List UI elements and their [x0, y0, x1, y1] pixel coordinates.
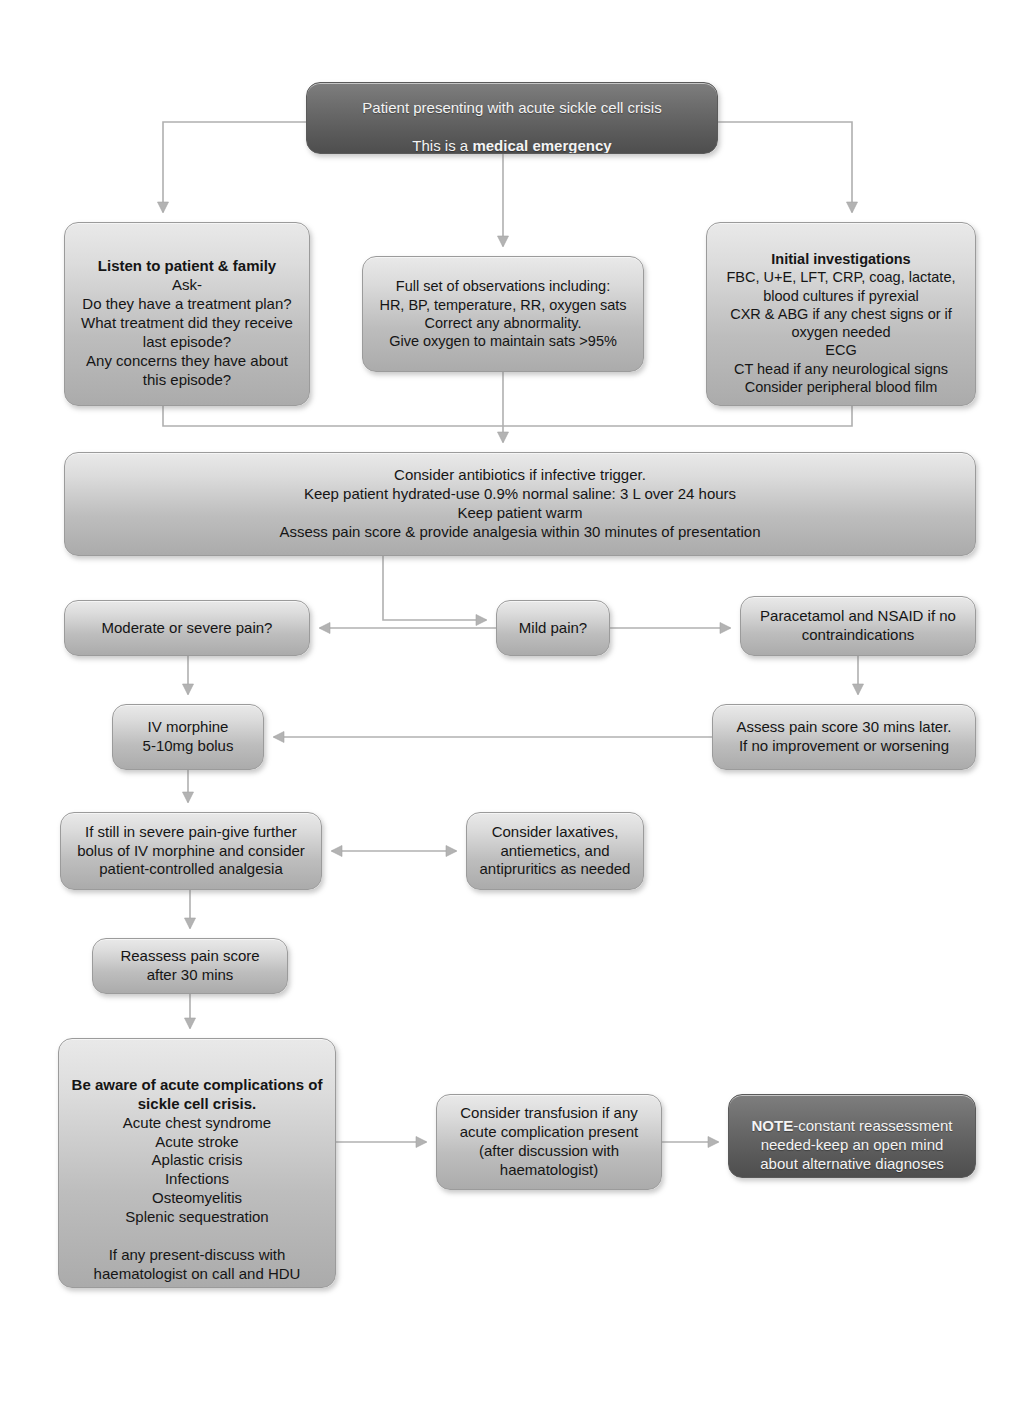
- mild-pain-body: Mild pain?: [509, 619, 597, 638]
- paracetamol-body: Paracetamol and NSAID if no contraindica…: [753, 607, 963, 645]
- presentation-line-2-prefix: This is a: [412, 137, 472, 154]
- reassess-30-body: Assess pain score 30 mins later. If no i…: [725, 718, 963, 756]
- investigations-heading: Initial investigations: [771, 251, 910, 267]
- note-bold-prefix: NOTE: [752, 1117, 794, 1134]
- flowchart-canvas: Patient presenting with acute sickle cel…: [0, 0, 1034, 1408]
- listen-heading: Listen to patient & family: [98, 257, 276, 274]
- mild-pain-box: Mild pain?: [496, 600, 610, 656]
- assess-pain-30-mins-box: Assess pain score 30 mins later. If no i…: [712, 704, 976, 770]
- further-bolus-body: If still in severe pain-give further bol…: [73, 823, 309, 880]
- presentation-line-1: Patient presenting with acute sickle cel…: [362, 99, 661, 116]
- reassess-score-body: Reassess pain score after 30 mins: [105, 947, 275, 985]
- initial-investigations-box: Initial investigationsFBC, U+E, LFT, CRP…: [706, 222, 976, 406]
- note-box: NOTE-constant reassessment needed-keep a…: [728, 1094, 976, 1178]
- presentation-box: Patient presenting with acute sickle cel…: [306, 82, 718, 154]
- supportive-body: Consider antibiotics if infective trigge…: [77, 466, 963, 542]
- acute-complications-box: Be aware of acute complications of sickl…: [58, 1038, 336, 1288]
- listen-to-patient-box: Listen to patient & familyAsk- Do they h…: [64, 222, 310, 406]
- presentation-line-2-bold: medical emergency: [472, 137, 611, 154]
- paracetamol-nsaid-box: Paracetamol and NSAID if no contraindica…: [740, 596, 976, 656]
- moderate-severe-body: Moderate or severe pain?: [77, 619, 297, 638]
- laxatives-antiemetics-box: Consider laxatives, antiemetics, and ant…: [466, 812, 644, 890]
- observations-box: Full set of observations including: HR, …: [362, 256, 644, 372]
- further-bolus-pca-box: If still in severe pain-give further bol…: [60, 812, 322, 890]
- complications-body: Acute chest syndrome Acute stroke Aplast…: [94, 1114, 301, 1282]
- iv-morphine-box: IV morphine 5-10mg bolus: [112, 704, 264, 770]
- laxatives-body: Consider laxatives, antiemetics, and ant…: [479, 823, 631, 880]
- investigations-body: FBC, U+E, LFT, CRP, coag, lactate, blood…: [726, 269, 955, 395]
- reassess-pain-score-box: Reassess pain score after 30 mins: [92, 938, 288, 994]
- complications-heading: Be aware of acute complications of sickl…: [72, 1076, 323, 1112]
- observations-body: Full set of observations including: HR, …: [375, 277, 631, 350]
- transfusion-body: Consider transfusion if any acute compli…: [449, 1104, 649, 1180]
- supportive-care-box: Consider antibiotics if infective trigge…: [64, 452, 976, 556]
- moderate-or-severe-pain-box: Moderate or severe pain?: [64, 600, 310, 656]
- consider-transfusion-box: Consider transfusion if any acute compli…: [436, 1094, 662, 1190]
- listen-body: Ask- Do they have a treatment plan? What…: [81, 276, 293, 387]
- morphine-body: IV morphine 5-10mg bolus: [125, 718, 251, 756]
